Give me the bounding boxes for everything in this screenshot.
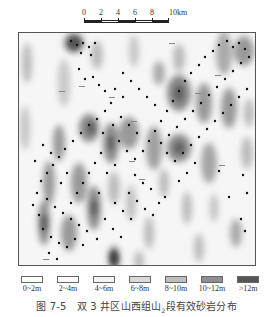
caption-text-b: 段有效砂岩分布 [166, 301, 237, 312]
legend-swatch [201, 276, 223, 283]
scale-tick-label: 4 [116, 8, 120, 17]
sandstone-thickness-map [18, 32, 256, 266]
scale-tick-label: 0 [82, 8, 86, 17]
legend-label: 2~4m [50, 284, 86, 293]
legend-item: >12m [230, 276, 266, 293]
legend-swatch [57, 276, 79, 283]
scale-tick [84, 18, 85, 23]
figure-number: 图 7-5 [36, 301, 67, 312]
scale-tick-label: 2 [99, 8, 103, 17]
scale-segment [84, 20, 101, 23]
scale-bar: 0 2 4 6 8 10km [84, 8, 194, 28]
scale-tick [101, 18, 102, 23]
scale-tick [152, 18, 153, 23]
legend-label: >12m [230, 284, 266, 293]
scale-tick [135, 18, 136, 23]
legend-swatch [93, 276, 115, 283]
legend-label: 10~12m [194, 284, 230, 293]
legend-swatch [237, 276, 259, 283]
scale-segment [101, 20, 118, 23]
scale-track [84, 20, 169, 23]
legend-item: 8~10m [158, 276, 194, 293]
legend-item: 0~2m [14, 276, 50, 293]
scale-segment [135, 20, 152, 23]
legend-label: 0~2m [14, 284, 50, 293]
legend-item: 6~8m [122, 276, 158, 293]
scale-tick [168, 18, 169, 23]
legend-item: 4~6m [86, 276, 122, 293]
scale-segment [118, 20, 135, 23]
scale-tick [118, 18, 119, 23]
legend-swatch [165, 276, 187, 283]
caption-text-a: 双 3 井区山西组山 [77, 301, 162, 312]
legend-swatch [21, 276, 43, 283]
legend-swatch [129, 276, 151, 283]
legend-label: 6~8m [122, 284, 158, 293]
legend-label: 8~10m [158, 284, 194, 293]
legend-label: 4~6m [86, 284, 122, 293]
scale-segment [152, 20, 169, 23]
scale-tick-label: 6 [133, 8, 137, 17]
legend-item: 10~12m [194, 276, 230, 293]
figure-caption: 图 7-5 双 3 井区山西组山2段有效砂岩分布 [0, 298, 273, 314]
map-canvas [19, 33, 255, 265]
scale-tick-label: 8 [150, 8, 154, 17]
scale-tick-label: 10km [169, 8, 187, 17]
legend-item: 2~4m [50, 276, 86, 293]
thickness-legend: 0~2m 2~4m 4~6m 6~8m 8~10m 10~12m >12m [14, 276, 264, 296]
